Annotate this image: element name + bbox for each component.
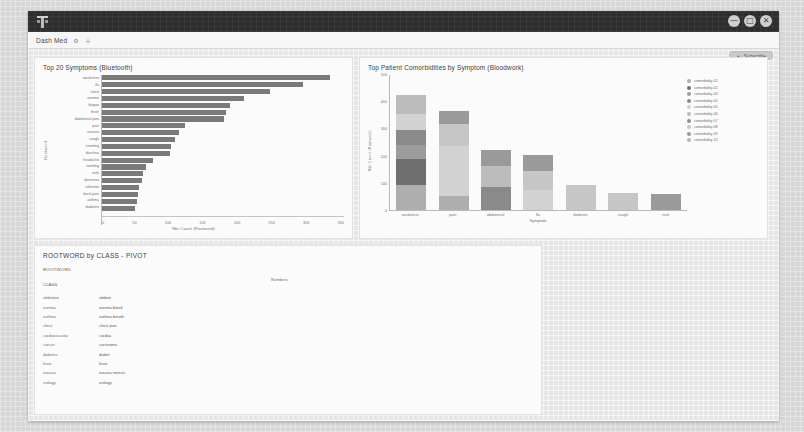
symptoms-bar-row[interactable] [102,123,344,129]
table-row[interactable]: urologyurology [43,378,533,387]
comorbidities-stacked-bar[interactable] [608,193,638,210]
symptoms-bar[interactable] [102,158,153,163]
legend-item[interactable]: comorbidity-07 [687,119,759,123]
legend-item[interactable]: comorbidity-09 [687,132,759,136]
comorbidities-bar-segment[interactable] [396,130,426,145]
symptoms-bar-row[interactable] [102,198,344,204]
symptoms-plot-area: 050100150200250300350 [101,75,344,225]
tab-dash-med[interactable]: Dash Med [36,37,67,44]
symptoms-bar[interactable] [102,96,244,101]
legend-item[interactable]: comorbidity-08 [687,125,759,129]
symptoms-bar-row[interactable] [102,137,344,143]
table-row[interactable]: anemiaanemia blood [43,302,533,311]
symptoms-bar[interactable] [102,116,224,121]
legend-item[interactable]: comorbidity-03 [687,92,759,96]
comorbidities-bar-segment[interactable] [396,114,426,130]
comorbidities-bar-segment[interactable] [396,159,426,185]
symptoms-bar[interactable] [102,206,135,211]
legend-item[interactable]: comorbidity-02 [687,86,759,90]
symptoms-bar[interactable] [102,103,230,108]
comorbidities-bar-segment[interactable] [523,171,553,190]
symptoms-bar[interactable] [102,130,179,135]
comorbidities-bar-segment[interactable] [396,95,426,114]
table-row[interactable]: chestchest pain [43,321,533,330]
comorbidities-bar-segment[interactable] [481,166,511,187]
symptoms-bar-row[interactable] [102,116,344,122]
symptoms-bar-row[interactable] [102,185,344,191]
symptoms-bar[interactable] [102,164,146,169]
symptoms-bar[interactable] [102,123,185,128]
comorbidities-chart: Nbr Count (Rootword) 0100200300400500 we… [368,75,759,227]
legend-item[interactable]: comorbidity-01 [687,79,759,83]
add-tab-icon[interactable]: ＋ [85,36,91,45]
table-row[interactable]: abdomenabdom [43,293,533,302]
comorbidities-bar-segment[interactable] [439,146,469,196]
symptoms-bar[interactable] [102,110,226,115]
symptoms-bar[interactable] [102,82,303,87]
close-button[interactable]: ✕ [760,15,772,27]
legend-item[interactable]: comorbidity-05 [687,105,759,109]
symptoms-bar-row[interactable] [102,96,344,102]
comorbidities-bar-segment[interactable] [481,187,511,210]
symptoms-bar[interactable] [102,192,138,197]
symptoms-bar[interactable] [102,151,170,156]
symptoms-bar[interactable] [102,89,270,94]
comorbidities-stacked-bar[interactable] [439,111,469,210]
symptoms-bar[interactable] [102,144,171,149]
comorbidities-chart-title: Top Patient Comorbidities by Symptom (Bl… [368,64,759,71]
legend-item[interactable]: comorbidity-04 [687,99,759,103]
settings-icon[interactable]: ⚙ [73,37,78,44]
pivot-rootword-cell: urology [99,380,189,385]
symptoms-bar-row[interactable] [102,75,344,81]
comorbidities-bar-segment[interactable] [396,145,426,159]
comorbidities-bar-segment[interactable] [523,190,553,210]
pivot-title: ROOTWORD by CLASS - PIVOT [43,252,533,259]
symptoms-bar[interactable] [102,75,330,80]
comorbidities-bar-segment[interactable] [608,193,638,210]
maximize-button[interactable]: □ [744,15,756,27]
comorbidities-bar-segment[interactable] [396,185,426,210]
symptoms-bar-row[interactable] [102,150,344,156]
legend-item[interactable]: comorbidity-06 [687,112,759,116]
symptoms-bar-row[interactable] [102,130,344,136]
symptoms-bar[interactable] [102,171,143,176]
symptoms-bar[interactable] [102,185,139,190]
pivot-class-cell: fever [43,361,91,366]
dashboard-window: — □ ✕ Dash Med ⚙ ＋ ▲ Subscribe Top 20 Sy… [28,11,779,421]
symptoms-bar-row[interactable] [102,157,344,163]
comorbidities-bar-segment[interactable] [481,150,511,166]
symptoms-bar-row[interactable] [102,144,344,150]
symptoms-bar-row[interactable] [102,205,344,211]
symptoms-bar-row[interactable] [102,82,344,88]
comorbidities-bar-segment[interactable] [651,194,681,210]
minimize-button[interactable]: — [728,15,740,27]
table-row[interactable]: diabetesdiabet [43,349,533,358]
comorbidities-stacked-bar[interactable] [523,155,553,210]
table-row[interactable]: asthmaasthma breath [43,312,533,321]
symptoms-bar-row[interactable] [102,164,344,170]
symptoms-bar[interactable] [102,178,142,183]
table-row[interactable]: nauseanausea emesis [43,368,533,377]
comorbidities-bar-segment[interactable] [439,196,469,210]
comorbidities-stacked-bar[interactable] [396,95,426,210]
symptoms-bar[interactable] [102,199,137,204]
table-row[interactable]: feverfever [43,359,533,368]
comorbidities-bar-segment[interactable] [523,155,553,172]
pivot-rootword-cell: nausea emesis [99,370,189,375]
table-row[interactable]: cardiovascularcardiac [43,331,533,340]
symptoms-bar-row[interactable] [102,109,344,115]
comorbidities-bar-segment[interactable] [566,185,596,210]
comorbidities-stacked-bar[interactable] [566,185,596,210]
symptoms-bar-row[interactable] [102,171,344,177]
comorbidities-stacked-bar[interactable] [481,150,511,210]
symptoms-bar-row[interactable] [102,102,344,108]
symptoms-bar[interactable] [102,137,175,142]
table-row[interactable]: cancercarcinoma [43,340,533,349]
symptoms-bar-row[interactable] [102,192,344,198]
comorbidities-stacked-bar[interactable] [651,194,681,210]
comorbidities-bar-segment[interactable] [439,111,469,124]
comorbidities-bar-segment[interactable] [439,124,469,146]
symptoms-bar-row[interactable] [102,178,344,184]
legend-item[interactable]: comorbidity-10 [687,138,759,142]
symptoms-bar-row[interactable] [102,89,344,95]
